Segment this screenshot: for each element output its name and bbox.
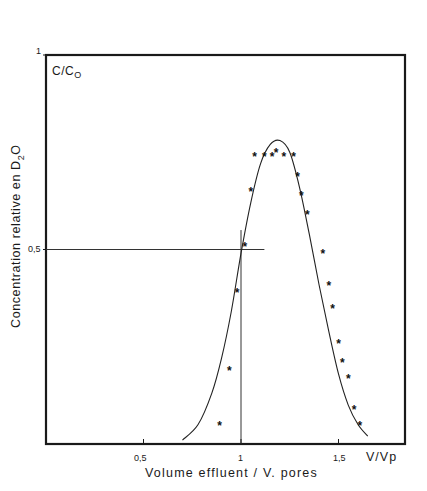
data-point-star: * (274, 146, 279, 160)
x-tick-label-1: 1 (238, 453, 243, 463)
y-axis-label-subscript: 2 (16, 155, 26, 161)
x-tick-label-0-5: 0,5 (134, 453, 147, 463)
data-point-star: * (299, 189, 304, 203)
data-point-star: * (346, 372, 351, 386)
y-axis-label-tail: O (9, 144, 23, 154)
data-point-star: * (252, 150, 257, 164)
y-axis-label-wrap: Concentration relative en D2O (9, 60, 39, 320)
data-points: ********************** (217, 146, 362, 432)
data-point-star: * (340, 356, 345, 370)
data-point-star: * (321, 247, 326, 261)
corner-label-text: C/C (52, 64, 74, 78)
data-point-star: * (217, 419, 222, 433)
data-point-star: * (243, 240, 248, 254)
data-point-star: * (305, 208, 310, 222)
x-tick-label-1-5: 1,5 (333, 453, 346, 463)
y-axis-label: Concentration relative en D2O (9, 144, 26, 328)
data-point-star: * (326, 279, 331, 293)
corner-label-subscript: O (74, 70, 82, 80)
y-tick-label-0-5: 0,5 (28, 244, 41, 254)
x-axis-label: Volume effluent / V. pores (145, 466, 318, 480)
y-tick-label-1: 1 (36, 46, 41, 56)
y-axis-label-text: Concentration relative en (9, 170, 23, 328)
y-axis-label-species: D (9, 160, 23, 170)
data-point-star: * (227, 364, 232, 378)
data-point-star: * (282, 150, 287, 164)
data-point-star: * (336, 337, 341, 351)
data-point-star: * (291, 150, 296, 164)
x-axis-unit: V/Vp (366, 450, 397, 464)
data-point-star: * (352, 403, 357, 417)
theoretical-curve-path (183, 140, 368, 440)
data-point-star: * (330, 302, 335, 316)
data-point-star: * (262, 150, 267, 164)
y-axis-quantity-label: C/CO (52, 64, 82, 80)
data-point-star: * (358, 419, 363, 433)
reference-lines (46, 230, 264, 444)
data-point-star: * (248, 185, 253, 199)
data-point-star: * (295, 170, 300, 184)
data-point-star: * (235, 286, 240, 300)
theoretical-curve (183, 140, 368, 440)
